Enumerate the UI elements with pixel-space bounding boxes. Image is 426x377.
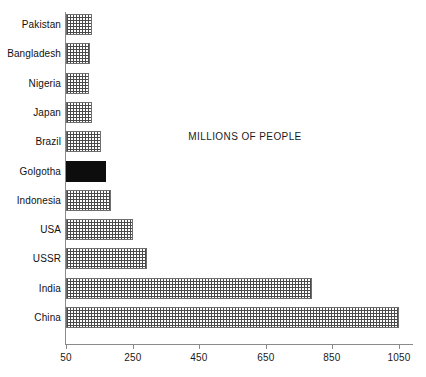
bar-brazil [66,131,101,152]
x-axis-line [65,344,413,345]
x-tick-mark [266,344,267,349]
x-tick-mark [133,344,134,349]
bar-pakistan [66,14,92,35]
plot-area: 502504506508501050 PakistanBangladeshNig… [0,0,426,377]
bar-japan [66,102,92,123]
x-tick-label: 450 [179,352,219,363]
bar-row: USSR [0,248,426,270]
x-tick-mark [399,344,400,349]
bar-row: Bangladesh [0,43,426,65]
bar-ussr [66,248,147,269]
category-label-brazil: Brazil [0,131,61,153]
category-label-nigeria: Nigeria [0,73,61,95]
x-tick-mark [332,344,333,349]
bar-row: USA [0,219,426,241]
bar-row: India [0,278,426,300]
category-label-japan: Japan [0,102,61,124]
bar-bangladesh [66,43,90,64]
bar-row: Japan [0,102,426,124]
bar-row: Golgotha [0,161,426,183]
bar-row: Indonesia [0,190,426,212]
x-tick-label: 650 [246,352,286,363]
bar-row: Nigeria [0,73,426,95]
bar-chart: 502504506508501050 PakistanBangladeshNig… [0,0,426,377]
bar-india [66,278,312,299]
category-label-golgotha: Golgotha [0,161,61,183]
x-tick-label: 850 [312,352,352,363]
x-tick-label: 1050 [379,352,419,363]
x-tick-label: 250 [113,352,153,363]
x-tick-mark [199,344,200,349]
category-label-ussr: USSR [0,248,61,270]
bar-indonesia [66,190,111,211]
x-tick-mark [66,344,67,349]
x-tick-label: 50 [46,352,86,363]
bar-nigeria [66,73,89,94]
category-label-bangladesh: Bangladesh [0,43,61,65]
category-label-india: India [0,278,61,300]
bar-golgotha [66,161,106,182]
category-label-china: China [0,307,61,329]
bar-row: Pakistan [0,14,426,36]
bar-china [66,307,399,328]
category-label-usa: USA [0,219,61,241]
category-label-indonesia: Indonesia [0,190,61,212]
category-label-pakistan: Pakistan [0,14,61,36]
chart-title: MILLIONS OF PEOPLE [160,131,330,142]
bar-row: China [0,307,426,329]
bar-usa [66,219,133,240]
